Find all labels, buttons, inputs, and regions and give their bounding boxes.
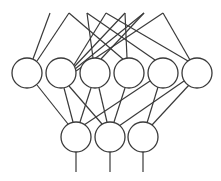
input-connection — [101, 13, 144, 59]
output-layer-node-o1 — [61, 122, 91, 152]
input-connection — [163, 13, 190, 60]
output-layer-node-o3 — [128, 122, 158, 152]
hidden-layer-node-h1 — [12, 58, 42, 88]
hidden-layer-node-h5 — [148, 58, 178, 88]
input-connection — [37, 13, 69, 61]
output-lines — [76, 152, 143, 172]
input-connection — [125, 13, 127, 58]
hidden-layer-node-h6 — [182, 58, 212, 88]
hidden-layer-node-h4 — [114, 58, 144, 88]
hidden-layer-node-h3 — [80, 58, 110, 88]
hidden-output-connection — [99, 88, 107, 122]
hidden-output-connection — [80, 88, 91, 122]
hidden-output-connection — [64, 88, 73, 122]
neural-network-diagram — [0, 0, 221, 181]
hidden-layer-node-h2 — [46, 58, 76, 88]
input-connection — [33, 13, 50, 59]
output-layer-node-o2 — [95, 122, 125, 152]
hidden-output-connection — [37, 85, 68, 124]
neuron-nodes — [12, 58, 212, 152]
hidden-output-connection — [114, 88, 125, 122]
